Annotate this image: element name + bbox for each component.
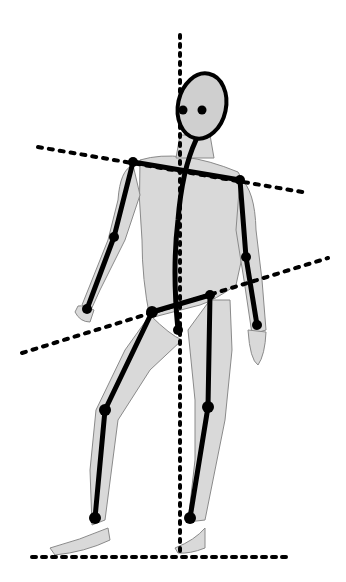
joint-right-wrist (252, 320, 262, 330)
eye-left (179, 106, 188, 115)
joint-left-elbow (109, 232, 119, 242)
joint-right-knee (202, 401, 214, 413)
joint-right-ankle (184, 512, 196, 524)
joint-pelvis (173, 325, 183, 335)
joint-left-hip (146, 306, 158, 318)
eye-right (198, 106, 207, 115)
joint-left-wrist (82, 304, 92, 314)
joint-right-elbow (241, 252, 251, 262)
joint-right-shoulder (235, 175, 245, 185)
joint-left-knee (99, 404, 111, 416)
joint-right-hip (205, 290, 215, 300)
right-thigh (208, 295, 210, 407)
sketch-svg (0, 0, 346, 582)
figure-sketch (0, 0, 346, 582)
joint-left-shoulder (128, 157, 138, 167)
joint-left-ankle (89, 512, 101, 524)
